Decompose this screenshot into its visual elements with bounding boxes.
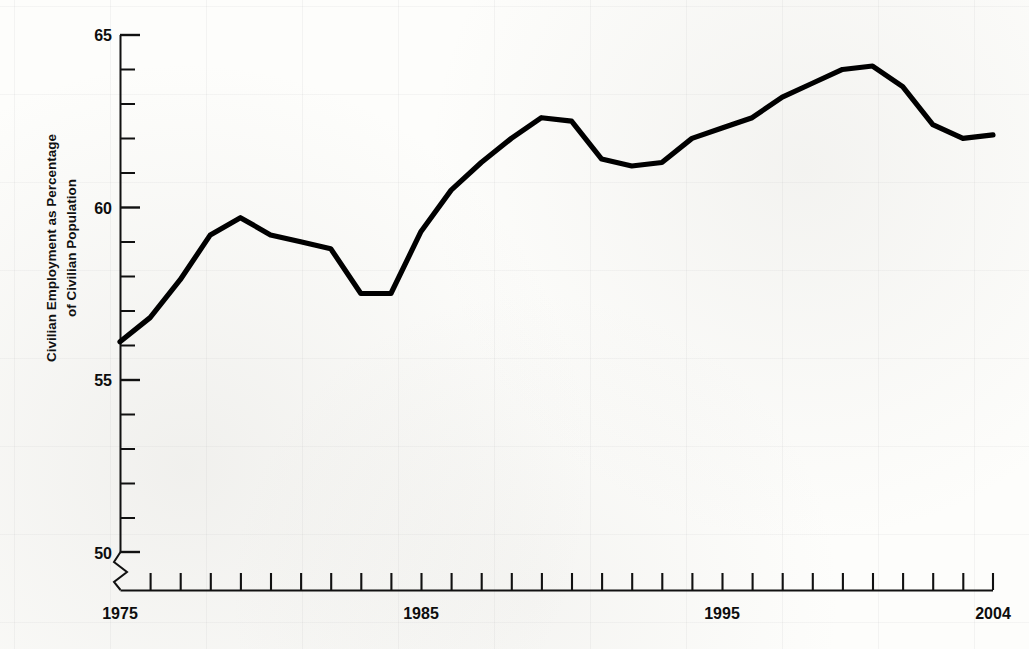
x-tick-label-2004: 2004 bbox=[975, 605, 1011, 622]
y-tick-label-50: 50 bbox=[94, 545, 112, 562]
line-chart: Civilian Employment as Percentage of Civ… bbox=[0, 0, 1029, 649]
y-axis-label: Civilian Employment as Percentage of Civ… bbox=[44, 133, 79, 362]
data-series-line bbox=[120, 66, 993, 342]
chart-page: Civilian Employment as Percentage of Civ… bbox=[0, 0, 1029, 649]
x-tick-label-1995: 1995 bbox=[704, 605, 740, 622]
y-axis-label-line2: of Civilian Population bbox=[64, 179, 79, 317]
y-axis-label-line1: Civilian Employment as Percentage bbox=[44, 133, 59, 362]
y-tick-label-65: 65 bbox=[94, 27, 112, 44]
y-axis-ticks bbox=[120, 35, 140, 552]
x-tick-label-1985: 1985 bbox=[403, 605, 439, 622]
x-axis-tick-labels: 1975 1985 1995 2004 bbox=[102, 605, 1011, 622]
y-axis-break-icon bbox=[114, 552, 127, 590]
x-tick-label-1975: 1975 bbox=[102, 605, 138, 622]
y-tick-label-60: 60 bbox=[94, 200, 112, 217]
y-tick-label-55: 55 bbox=[94, 372, 112, 389]
x-axis-ticks bbox=[121, 573, 994, 590]
y-axis-tick-labels: 65 60 55 50 bbox=[94, 27, 112, 562]
